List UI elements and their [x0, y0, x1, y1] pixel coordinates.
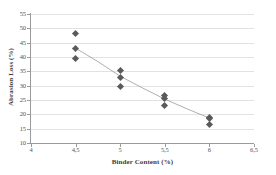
x-tick-label: 5,5 — [150, 147, 180, 154]
y-axis-title: Abrasion Loss (%) — [7, 12, 19, 142]
x-tick-mark — [165, 144, 166, 147]
x-tick-label: 5 — [105, 147, 135, 154]
x-tick-mark — [209, 144, 210, 147]
abrasion-loss-scatter-chart: 10152025303540455055 44,555,566,5 Abrasi… — [0, 0, 276, 175]
y-tick-mark — [27, 71, 30, 72]
y-tick-mark — [27, 86, 30, 87]
x-axis-title: Binder Content (%) — [31, 158, 254, 166]
y-tick-mark — [27, 43, 30, 44]
y-tick-mark — [27, 57, 30, 58]
y-tick-mark — [27, 28, 30, 29]
x-tick-mark — [76, 144, 77, 147]
x-axis-line — [30, 143, 254, 144]
x-tick-label: 4,5 — [61, 147, 91, 154]
x-tick-mark — [120, 144, 121, 147]
y-tick-mark — [27, 14, 30, 15]
y-tick-mark — [27, 114, 30, 115]
x-tick-label: 4 — [16, 147, 46, 154]
y-tick-mark — [27, 143, 30, 144]
trendline — [31, 14, 254, 143]
x-tick-label: 6 — [194, 147, 224, 154]
x-tick-label: 6,5 — [239, 147, 269, 154]
x-tick-mark — [254, 144, 255, 147]
plot-area — [31, 14, 254, 143]
x-tick-mark — [31, 144, 32, 147]
y-tick-mark — [27, 129, 30, 130]
y-tick-mark — [27, 100, 30, 101]
